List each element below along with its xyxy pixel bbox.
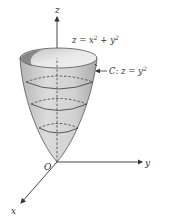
paraboloid-surface <box>20 58 97 162</box>
paraboloid-top-rim <box>20 48 97 68</box>
z-axis-label: z <box>54 5 60 15</box>
curve-c-label: C: z = y2 <box>109 65 147 77</box>
y-axis-label: y <box>144 158 151 168</box>
origin-label: O <box>44 162 52 172</box>
surface-equation: z = x2 + y2 <box>71 34 119 46</box>
x-axis <box>21 162 57 203</box>
paraboloid-diagram: z y x O z = x2 + y2 C: z = y2 <box>0 0 173 222</box>
x-axis-label: x <box>11 206 16 216</box>
